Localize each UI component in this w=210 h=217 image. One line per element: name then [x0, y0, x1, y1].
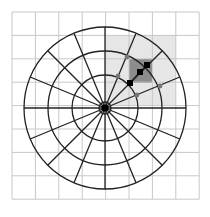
gray-marker — [125, 55, 130, 60]
gray-marker — [158, 84, 163, 89]
black-marker — [127, 80, 133, 86]
center-hub — [102, 105, 109, 112]
gray-marker — [116, 74, 121, 79]
black-marker — [137, 69, 143, 75]
black-marker — [144, 62, 150, 68]
polar-grid-diagram — [0, 0, 210, 217]
gray-marker — [135, 93, 140, 98]
